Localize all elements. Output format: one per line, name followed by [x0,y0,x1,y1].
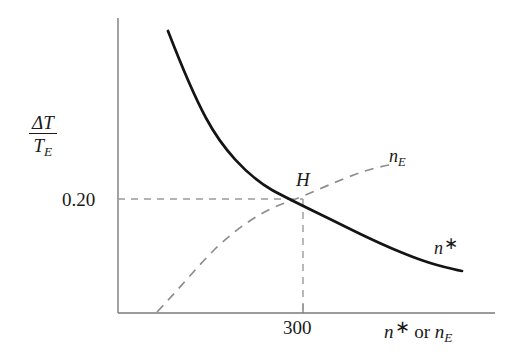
curve-label-nstar-base: n [434,238,443,258]
y-axis-denominator-subscript: E [44,144,52,159]
curve-label-ne-base: n [389,146,398,166]
y-axis-numerator: ΔT [32,112,54,133]
y-tick-label-020: 0.20 [62,190,95,209]
x-axis-label-nstar-star: ∗ [394,317,410,337]
curve-nstar [168,31,462,271]
y-axis-denominator-base: T [34,135,45,156]
x-axis-label-nstar-base: n [384,321,394,342]
curve-ne [157,164,396,312]
x-axis-label-ne-subscript: E [444,330,452,345]
x-axis-label-conjunction: or [414,321,430,342]
chart-figure: ΔT TE 0.20 300 n∗ or nE nE n∗ H [0,0,513,361]
curve-label-nstar-star: ∗ [443,234,458,253]
intersection-label-h: H [296,170,310,189]
curve-label-nstar: n∗ [434,235,458,257]
y-axis-label: ΔT TE [29,113,57,158]
plot-canvas [0,0,513,361]
x-axis-label-ne-base: n [435,321,445,342]
curve-label-ne-subscript: E [398,155,406,169]
x-tick-label-300: 300 [283,318,312,337]
curve-label-ne: nE [389,147,406,168]
x-axis-label: n∗ or nE [384,318,452,344]
